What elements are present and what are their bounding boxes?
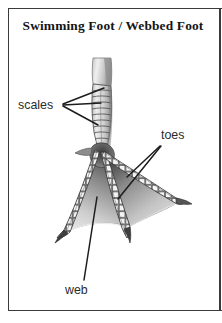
figure-plate: Swimming Foot / Webbed Foot <box>0 0 222 323</box>
callout-label-web: web <box>65 283 88 297</box>
leader-toes-1 <box>127 146 160 177</box>
tarsus-leg <box>92 58 112 152</box>
hallux-spur <box>75 148 92 155</box>
webbed-foot-illustration <box>0 0 222 323</box>
claw-right <box>176 198 192 204</box>
callout-label-toes: toes <box>161 128 184 142</box>
callout-label-scales: scales <box>18 98 53 112</box>
